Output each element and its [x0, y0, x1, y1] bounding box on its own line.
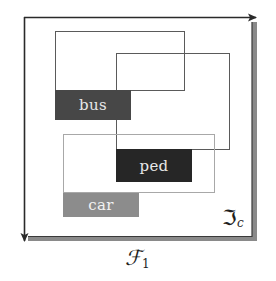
car-label: car	[63, 193, 139, 217]
image-frame-symbol: ℑ	[222, 206, 237, 230]
bus-label-text: bus	[79, 96, 107, 114]
frame-graphics	[0, 0, 276, 281]
image-frame-label: ℑc	[222, 206, 244, 235]
feature-map-symbol: ℱ	[125, 246, 142, 270]
car-label-text: car	[88, 196, 113, 214]
feature-map-subscript: 1	[142, 257, 150, 271]
image-frame-subscript: c	[237, 216, 244, 230]
ped-bounding-box	[117, 54, 230, 150]
bus-label: bus	[55, 90, 131, 120]
diagram-canvas: bus ped car ℑc ℱ1	[0, 0, 276, 281]
feature-map-label: ℱ1	[125, 246, 150, 276]
ped-label-text: ped	[140, 157, 169, 175]
bus-bounding-box	[56, 32, 185, 91]
ped-label: ped	[116, 149, 192, 182]
